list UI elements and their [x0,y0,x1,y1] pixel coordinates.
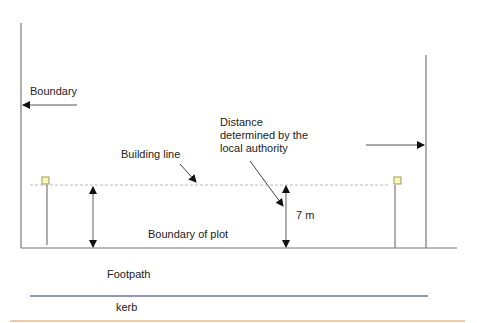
boundary-label: Boundary [30,85,77,98]
footpath-label: Footpath [107,268,150,281]
building-line-pointer [180,164,196,182]
distance-note-line3: local authority [220,142,308,155]
distance-note-pointer [250,161,283,206]
distance-note-line1: Distance [220,116,308,129]
kerb-label: kerb [116,301,137,314]
distance-note-line2: determined by the [220,129,308,142]
right-post-marker [394,177,401,184]
dimension-label: 7 m [296,209,314,222]
boundary-of-plot-label: Boundary of plot [148,228,228,241]
left-post-marker [42,177,49,184]
distance-note: Distance determined by the local authori… [220,116,308,155]
building-line-label: Building line [121,148,180,161]
site-plan-diagram [0,0,477,323]
